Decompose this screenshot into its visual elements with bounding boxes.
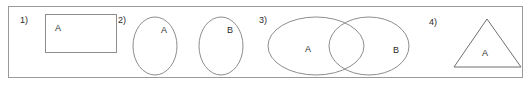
ellipse-set-label-b: B (227, 26, 233, 35)
triangle-set-label-a: A (482, 49, 488, 58)
rectangle-set-label-a: A (55, 24, 61, 33)
figure-2-disjoint-ellipses: 2) A B (118, 12, 258, 78)
figure-1-number: 1) (20, 16, 28, 25)
triangle-shape (429, 12, 529, 76)
figure-panel: 1) A 2) A B 3) A B 4) A (8, 6, 523, 78)
figure-4-triangle: 4) A (429, 12, 529, 76)
rectangle-shape (45, 14, 117, 53)
venn-diagram-shape (259, 12, 424, 78)
venn-set-label-a: A (305, 45, 311, 54)
figure-1-rectangle: 1) A (20, 12, 125, 74)
venn-set-label-b: B (393, 46, 399, 55)
ellipse-set-label-a: A (161, 26, 167, 35)
figure-3-venn-diagram: 3) A B (259, 12, 424, 78)
disjoint-ellipses-shape (118, 12, 258, 78)
